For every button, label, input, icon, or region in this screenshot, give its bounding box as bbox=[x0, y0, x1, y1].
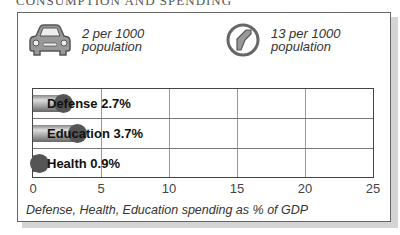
stat-phones: 13 per 1000 population bbox=[225, 22, 340, 58]
gridline bbox=[169, 89, 170, 177]
gridline bbox=[33, 148, 373, 149]
x-tick: 10 bbox=[162, 181, 176, 196]
x-tick: 20 bbox=[298, 181, 312, 196]
x-tick: 25 bbox=[366, 181, 380, 196]
x-tick: 5 bbox=[97, 181, 104, 196]
stat-phones-unit: population bbox=[271, 40, 340, 53]
bar-label-health: Health 0.9% bbox=[47, 156, 120, 171]
bar-label-education: Education 3.7% bbox=[47, 126, 143, 141]
x-tick: 15 bbox=[230, 181, 244, 196]
gridline bbox=[237, 89, 238, 177]
chart-caption: Defense, Health, Education spending as %… bbox=[26, 203, 308, 217]
stat-cars: 2 per 1000 population bbox=[28, 22, 144, 58]
bar-label-defense: Defense 2.7% bbox=[47, 96, 131, 111]
gridline bbox=[305, 89, 306, 177]
phone-icon bbox=[225, 22, 261, 58]
stat-cars-unit: population bbox=[82, 40, 144, 53]
x-tick: 0 bbox=[29, 181, 36, 196]
section-heading: CONSUMPTION AND SPENDING bbox=[16, 0, 232, 9]
bar-chart: Defense 2.7% Education 3.7% Health 0.9% bbox=[32, 88, 374, 178]
car-icon bbox=[28, 22, 72, 58]
gridline bbox=[33, 118, 373, 119]
bar-health bbox=[33, 155, 47, 172]
